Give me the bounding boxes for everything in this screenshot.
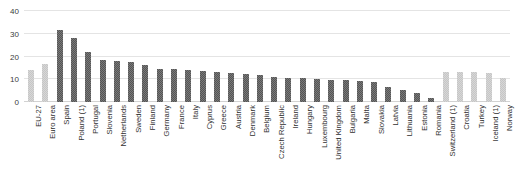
bar[interactable]	[328, 80, 334, 102]
bar[interactable]	[171, 69, 177, 102]
bar[interactable]	[343, 80, 349, 102]
x-axis-label-slot: Iceland (1)	[481, 103, 495, 174]
bar-slot	[281, 11, 295, 102]
bar[interactable]	[100, 60, 106, 102]
x-axis-label-slot: Euro area	[38, 103, 52, 174]
bar[interactable]	[486, 73, 492, 102]
x-axis-label-slot: Slovenia	[95, 103, 109, 174]
x-axis-label-slot: EU-27	[24, 103, 38, 174]
x-axis-label-slot: Greece	[210, 103, 224, 174]
bar-slot	[396, 11, 410, 102]
x-axis-label-slot: Denmark	[238, 103, 252, 174]
bar[interactable]	[214, 72, 220, 102]
bar-slot	[124, 11, 138, 102]
bar-slot	[210, 11, 224, 102]
bar-slot	[467, 11, 481, 102]
bar-slot	[224, 11, 238, 102]
x-axis-label-slot: Lithuania	[396, 103, 410, 174]
bar[interactable]	[371, 82, 377, 102]
x-axis-label-slot: Croatia	[453, 103, 467, 174]
bar[interactable]	[285, 78, 291, 102]
bar-slot	[181, 11, 195, 102]
bar[interactable]	[443, 72, 449, 102]
y-axis-tick-label: 20	[10, 52, 19, 61]
x-axis-label-slot: Ireland	[281, 103, 295, 174]
bar-slot	[367, 11, 381, 102]
y-axis-tick-label: 40	[10, 7, 19, 16]
bar[interactable]	[228, 73, 234, 102]
bar-slot	[153, 11, 167, 102]
bar[interactable]	[114, 61, 120, 102]
x-axis-label-slot: Bulgaria	[338, 103, 352, 174]
x-axis-label-slot: Switzerland (1)	[439, 103, 453, 174]
x-axis-label-slot: Finland	[138, 103, 152, 174]
bar-slot	[338, 11, 352, 102]
x-axis-label-slot: Czech Republic	[267, 103, 281, 174]
bar-slot	[95, 11, 109, 102]
bar-slot	[296, 11, 310, 102]
bar[interactable]	[457, 72, 463, 102]
x-axis-label-slot: Austria	[224, 103, 238, 174]
bar[interactable]	[71, 38, 77, 102]
bar-slot	[496, 11, 510, 102]
bar-slot	[267, 11, 281, 102]
bar-slot	[67, 11, 81, 102]
bar[interactable]	[471, 72, 477, 102]
bar[interactable]	[428, 98, 434, 102]
bar-slot	[38, 11, 52, 102]
bar[interactable]	[314, 79, 320, 102]
bar[interactable]	[200, 71, 206, 102]
bar-slot	[310, 11, 324, 102]
bar-slot	[453, 11, 467, 102]
bar[interactable]	[385, 87, 391, 102]
bar[interactable]	[185, 70, 191, 102]
x-axis-label-slot: Poland (1)	[67, 103, 81, 174]
bar-slot	[81, 11, 95, 102]
x-axis-label-slot: Hungary	[296, 103, 310, 174]
bar-slot	[110, 11, 124, 102]
bar[interactable]	[57, 30, 63, 102]
bar-slot	[410, 11, 424, 102]
y-axis-tick-label: 10	[10, 75, 19, 84]
bar-slot	[196, 11, 210, 102]
x-axis-label-slot: Latvia	[381, 103, 395, 174]
x-axis-label-slot: France	[167, 103, 181, 174]
bar[interactable]	[157, 69, 163, 102]
x-axis-label-slot: Netherlands	[110, 103, 124, 174]
bar[interactable]	[85, 52, 91, 103]
x-axis-label-slot: Malta	[353, 103, 367, 174]
x-axis-label-slot: Romania	[424, 103, 438, 174]
bar[interactable]	[400, 90, 406, 102]
bar-slot	[481, 11, 495, 102]
x-axis-label-slot: Portugal	[81, 103, 95, 174]
x-axis-label-slot: Cyprus	[196, 103, 210, 174]
bar[interactable]	[142, 65, 148, 102]
x-axis-label-slot: Belgium	[253, 103, 267, 174]
chart-title-remnant	[24, 0, 254, 4]
bar[interactable]	[243, 74, 249, 102]
plot-area: 010203040	[24, 11, 510, 102]
bar[interactable]	[42, 64, 48, 102]
bar-slot	[138, 11, 152, 102]
y-axis-tick-label: 0	[14, 98, 19, 107]
bar-slot	[167, 11, 181, 102]
bar[interactable]	[28, 70, 34, 102]
bar[interactable]	[500, 78, 506, 102]
x-axis-label-slot: United Kingdom	[324, 103, 338, 174]
bar[interactable]	[414, 93, 420, 102]
bar-slot	[424, 11, 438, 102]
bar[interactable]	[300, 78, 306, 102]
x-axis-label-slot: Turkey	[467, 103, 481, 174]
x-axis-label: Norway	[506, 105, 514, 131]
bar[interactable]	[271, 77, 277, 102]
bar[interactable]	[128, 62, 134, 102]
x-axis-label-slot: Estonia	[410, 103, 424, 174]
bar-slot	[53, 11, 67, 102]
bar-chart: 010203040 EU-27Euro areaSpainPoland (1)P…	[0, 0, 517, 174]
bar[interactable]	[357, 81, 363, 102]
bar[interactable]	[257, 75, 263, 102]
bar-slot	[24, 11, 38, 102]
x-axis-label-slot: Norway	[496, 103, 510, 174]
x-axis-label-slot: Italy	[181, 103, 195, 174]
y-axis-tick-label: 30	[10, 29, 19, 38]
